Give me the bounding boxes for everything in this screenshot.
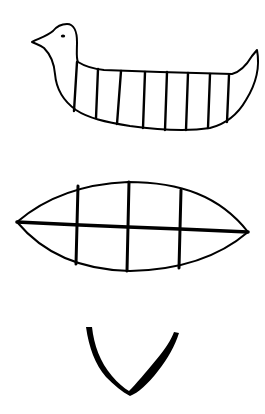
pictograph-canvas: Bird-shaped boat with vertical ribs Lens… [0, 0, 265, 414]
eye-icon [61, 34, 65, 37]
lens-grid-icon [17, 182, 248, 271]
bird-boat-icon [32, 24, 258, 130]
v-shape-icon [86, 327, 179, 396]
